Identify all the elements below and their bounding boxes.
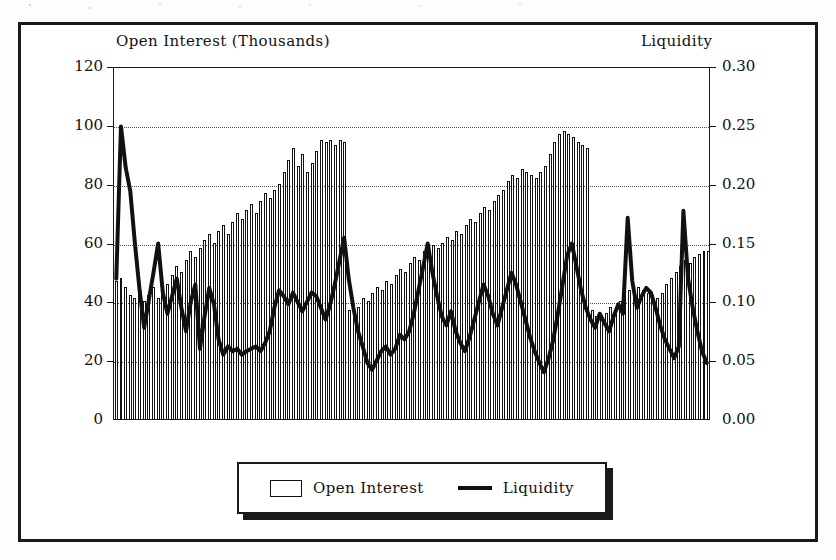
right-axis-tick-mark <box>709 302 716 303</box>
right-axis-tick-label: 0.15 <box>722 234 792 252</box>
left-axis-tick-label: 80 <box>43 175 103 193</box>
right-axis-tick-label: 0.30 <box>722 57 792 75</box>
bar-swatch-icon <box>270 480 302 497</box>
scan-noise-artifact <box>0 0 836 14</box>
left-axis-tick-mark <box>107 126 114 127</box>
legend-label-liquidity: Liquidity <box>503 479 574 497</box>
chart-legend: Open Interest Liquidity <box>237 462 607 514</box>
right-axis-tick-mark <box>709 361 716 362</box>
liquidity-line-layer <box>114 68 709 419</box>
left-axis-tick-label: 20 <box>43 351 103 369</box>
screenshot-page: Open Interest (Thousands) Liquidity 0204… <box>0 0 836 560</box>
right-axis-tick-mark <box>709 244 716 245</box>
right-axis-title: Liquidity <box>641 32 712 50</box>
left-axis-tick-label: 40 <box>43 292 103 310</box>
liquidity-line-path <box>116 126 706 372</box>
right-axis-tick-mark <box>709 67 716 68</box>
left-axis-tick-mark <box>107 185 114 186</box>
legend-label-open-interest: Open Interest <box>313 479 424 497</box>
right-axis-tick-label: 0.25 <box>722 116 792 134</box>
left-axis-tick-label: 100 <box>43 116 103 134</box>
right-axis-tick-label: 0.05 <box>722 351 792 369</box>
legend-entry-open-interest: Open Interest <box>270 479 424 497</box>
legend-entry-liquidity: Liquidity <box>458 479 574 497</box>
plot-area <box>113 67 710 420</box>
left-axis-title: Open Interest (Thousands) <box>116 32 330 50</box>
left-axis-tick-mark <box>107 302 114 303</box>
line-swatch-icon <box>458 486 492 490</box>
right-axis-tick-mark <box>709 185 716 186</box>
left-axis-tick-mark <box>107 361 114 362</box>
left-axis-tick-label: 120 <box>43 57 103 75</box>
right-axis-tick-mark <box>709 126 716 127</box>
left-axis-tick-label: 60 <box>43 234 103 252</box>
left-axis-tick-mark <box>107 244 114 245</box>
right-axis-tick-label: 0.00 <box>722 410 792 428</box>
left-axis-tick-mark <box>107 67 114 68</box>
right-axis-tick-label: 0.10 <box>722 292 792 310</box>
right-axis-tick-label: 0.20 <box>722 175 792 193</box>
left-axis-tick-label: 0 <box>43 410 103 428</box>
